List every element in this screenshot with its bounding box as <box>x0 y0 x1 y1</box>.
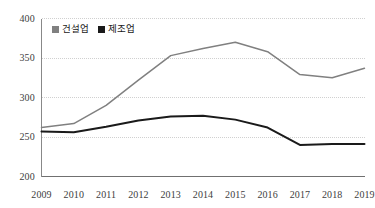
y-axis-labels: 200250300350400 <box>0 0 38 208</box>
x-tick-label: 2009 <box>31 189 51 200</box>
x-tick-label: 2016 <box>257 189 277 200</box>
x-tick-label: 2010 <box>64 189 84 200</box>
x-tick-label: 2015 <box>225 189 245 200</box>
y-tick-label: 400 <box>19 14 35 24</box>
legend-label-construction: 건설업 <box>62 23 89 35</box>
series-line-manufacturing <box>42 116 365 145</box>
y-tick-label: 250 <box>19 132 35 142</box>
x-tick-label: 2013 <box>160 189 180 200</box>
x-axis-labels: 2009201020112012201320142015201620172018… <box>0 186 371 204</box>
x-tick-label: 2018 <box>322 189 342 200</box>
y-tick-label: 200 <box>19 172 35 182</box>
legend-swatch-manufacturing <box>98 26 105 33</box>
legend-entry-construction: 건설업 <box>52 23 89 35</box>
y-tick-label: 350 <box>19 53 35 63</box>
x-tick-label: 2017 <box>290 189 310 200</box>
x-tick-label: 2011 <box>96 189 116 200</box>
x-tick-label: 2014 <box>193 189 213 200</box>
x-tick-label: 2019 <box>354 189 374 200</box>
y-tick-label: 300 <box>19 93 35 103</box>
legend-swatch-construction <box>52 26 59 33</box>
legend-label-manufacturing: 제조업 <box>108 23 135 35</box>
chart-legend: 건설업 제조업 <box>52 23 135 35</box>
legend-entry-manufacturing: 제조업 <box>98 23 135 35</box>
x-tick-label: 2012 <box>128 189 148 200</box>
